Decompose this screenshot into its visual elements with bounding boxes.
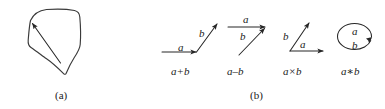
difference-label-a: a	[243, 14, 249, 25]
pentagon-outline	[28, 9, 80, 74]
difference-operation-label: a–b	[227, 66, 244, 77]
star-label-a: a	[352, 26, 358, 37]
figure-root: (a) (b) a b a+b a b a–b b a a×b a b a∗b	[0, 0, 385, 109]
star-label-b: b	[352, 40, 358, 51]
sum-operation-label: a+b	[171, 66, 189, 77]
pentagon-interior-arrow	[33, 24, 61, 64]
sum-label-b: b	[199, 28, 205, 39]
cross-label-b: b	[283, 31, 289, 42]
sum-label-a: a	[178, 42, 184, 53]
cross-label-a: a	[300, 39, 306, 50]
cross-operation-label: a×b	[283, 66, 301, 77]
star-loop-arrowhead	[366, 37, 372, 44]
caption-panel-b: (b)	[250, 90, 263, 101]
star-operation-label: a∗b	[341, 66, 359, 77]
difference-label-b: b	[240, 31, 246, 42]
caption-panel-a: (a)	[55, 90, 67, 101]
